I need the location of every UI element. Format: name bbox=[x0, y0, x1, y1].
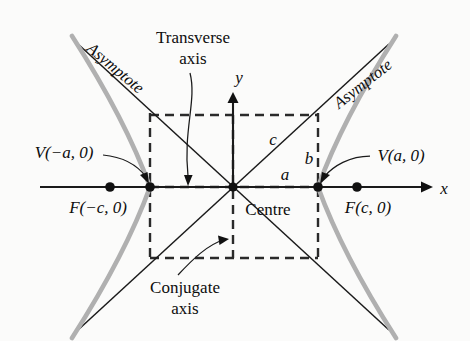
y-axis bbox=[228, 92, 239, 187]
transverse-axis-label-line1: Transverse bbox=[156, 28, 230, 47]
transverse-axis-label-line2: axis bbox=[179, 49, 206, 68]
focus-left-dot bbox=[105, 182, 115, 192]
vertex-left-dot bbox=[145, 182, 155, 192]
focus-right-dot bbox=[352, 182, 362, 192]
segment-b-label: b bbox=[305, 149, 314, 168]
segment-c-label: c bbox=[269, 130, 277, 149]
diagram-canvas: Asymptote Asymptote Transverse axis Conj… bbox=[0, 0, 470, 341]
centre-marker bbox=[228, 182, 237, 191]
segment-a-label: a bbox=[281, 165, 290, 184]
conjugate-axis-label-line2: axis bbox=[171, 299, 198, 318]
transverse-axis-pointer bbox=[184, 73, 193, 186]
vertex-left-label: V(−a, 0) bbox=[35, 143, 94, 162]
centre-label: Centre bbox=[245, 200, 290, 219]
y-axis-arrowhead bbox=[228, 92, 239, 103]
hyperbola-figure: Asymptote Asymptote Transverse axis Conj… bbox=[0, 0, 470, 341]
x-axis-label: x bbox=[439, 179, 448, 198]
y-axis-label: y bbox=[233, 68, 243, 87]
vertex-right-label: V(a, 0) bbox=[377, 146, 425, 165]
x-axis-arrowhead bbox=[421, 182, 433, 193]
centre-dot bbox=[228, 182, 237, 191]
vertex-left-pointer-arrowhead bbox=[140, 172, 149, 184]
conjugate-axis-label-line1: Conjugate bbox=[150, 278, 220, 297]
transverse-axis-pointer-arrowhead bbox=[184, 175, 193, 186]
conjugate-axis-pointer-arrowhead bbox=[218, 236, 229, 246]
conjugate-axis-pointer bbox=[178, 236, 229, 276]
asymptote-right-label: Asymptote bbox=[329, 55, 396, 113]
vertex-right-dot bbox=[313, 182, 323, 192]
transverse-axis-pointer-curve bbox=[187, 73, 192, 176]
focus-left-label: F(−c, 0) bbox=[68, 198, 127, 217]
focus-right-label: F(c, 0) bbox=[344, 198, 392, 217]
